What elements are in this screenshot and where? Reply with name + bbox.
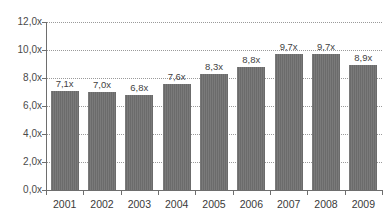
x-axis-tick	[233, 190, 234, 195]
x-axis-tick	[307, 190, 308, 195]
y-axis-tick	[42, 50, 46, 51]
x-axis-category-label: 2009	[345, 198, 382, 211]
x-axis-category-label: 2006	[233, 198, 270, 211]
bar-value-label: 6,8x	[116, 83, 162, 93]
bar[interactable]	[275, 54, 303, 190]
x-axis-tick	[121, 190, 122, 195]
y-axis-tick-label: 2,0x	[0, 157, 42, 167]
plot-area: 7,1x7,0x6,8x7,6x8,3x8,8x9,7x9,7x8,9x	[46, 22, 382, 190]
bar[interactable]	[51, 91, 79, 190]
x-axis-tick	[46, 190, 47, 195]
x-axis-category-label: 2002	[83, 198, 120, 211]
bar[interactable]	[349, 65, 377, 190]
x-axis-line	[46, 190, 383, 191]
y-axis-tick-label: 12,0x	[0, 17, 42, 27]
x-axis-tick	[345, 190, 346, 195]
x-axis-tick	[382, 190, 383, 195]
y-axis-tick	[42, 22, 46, 23]
bar-slot: 6,8x	[125, 22, 153, 190]
y-axis-tick	[42, 162, 46, 163]
bar[interactable]	[200, 74, 228, 190]
y-axis-tick-label: 0,0x	[0, 185, 42, 195]
y-axis-tick-label: 10,0x	[0, 45, 42, 55]
x-axis-category-label: 2004	[158, 198, 195, 211]
bar-value-label: 9,7x	[303, 42, 349, 52]
bar-slot: 8,8x	[237, 22, 265, 190]
bar-value-label: 7,6x	[154, 72, 200, 82]
bar-slot: 8,9x	[349, 22, 377, 190]
bar[interactable]	[312, 54, 340, 190]
x-axis-category-label: 2007	[270, 198, 307, 211]
x-axis-category-label: 2005	[195, 198, 232, 211]
x-axis-category-label: 2008	[307, 198, 344, 211]
y-axis-tick-label: 4,0x	[0, 129, 42, 139]
bar[interactable]	[237, 67, 265, 190]
bar[interactable]	[125, 95, 153, 190]
bar-slot: 9,7x	[275, 22, 303, 190]
x-axis-tick	[270, 190, 271, 195]
x-axis-category-label: 2003	[121, 198, 158, 211]
bar-slot: 8,3x	[200, 22, 228, 190]
y-axis-line	[46, 22, 47, 191]
bar[interactable]	[163, 84, 191, 190]
bar-chart: 0,0x2,0x4,0x6,0x8,0x10,0x12,0x 7,1x7,0x6…	[0, 0, 392, 223]
y-axis-tick	[42, 106, 46, 107]
bar-value-label: 8,9x	[340, 53, 386, 63]
bar-slot: 7,1x	[51, 22, 79, 190]
y-axis-tick	[42, 78, 46, 79]
y-axis-tick	[42, 134, 46, 135]
y-axis-tick-label: 6,0x	[0, 101, 42, 111]
x-axis-tick	[195, 190, 196, 195]
x-axis-category-label: 2001	[46, 198, 83, 211]
x-axis-tick	[83, 190, 84, 195]
bar-slot: 7,6x	[163, 22, 191, 190]
y-axis-tick-label: 8,0x	[0, 73, 42, 83]
x-axis-tick	[158, 190, 159, 195]
bar-slot: 7,0x	[88, 22, 116, 190]
bar[interactable]	[88, 92, 116, 190]
bar-slot: 9,7x	[312, 22, 340, 190]
bar-value-label: 8,8x	[228, 55, 274, 65]
